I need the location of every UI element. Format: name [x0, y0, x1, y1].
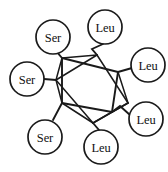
node-label-ser-top-left: Ser	[45, 31, 62, 45]
node-label-leu-top: Leu	[95, 21, 115, 35]
bond-connect-bottom-right	[93, 112, 112, 123]
node-label-ser-left: Ser	[19, 73, 36, 87]
node-label-ser-bottom-left: Ser	[37, 131, 54, 145]
cubane-substituent-diagram: Ser Leu Leu Ser Leu Ser	[0, 0, 168, 172]
node-label-leu-upper-right: Leu	[138, 59, 158, 73]
node-label-leu-lower-right: Leu	[136, 113, 156, 127]
bond-back-top-to-right	[97, 55, 128, 103]
node-leu-lower-right[interactable]: Leu	[129, 102, 163, 136]
bond-front-right	[112, 72, 118, 112]
node-leu-bottom[interactable]: Leu	[84, 130, 118, 164]
linker-leu-top	[92, 44, 103, 55]
core-bonds	[56, 55, 128, 123]
bond-connect-right-upper	[118, 72, 128, 103]
linker-ser-bottom-left	[53, 103, 62, 120]
linker-leu-bottom	[93, 123, 99, 130]
node-leu-top[interactable]: Leu	[88, 10, 122, 44]
substituent-nodes: Ser Leu Leu Ser Leu Ser	[10, 10, 165, 164]
diagram-canvas: Ser Leu Leu Ser Leu Ser	[0, 0, 168, 172]
linker-leu-upper-right	[118, 68, 132, 72]
linker-ser-left	[44, 79, 56, 80]
node-ser-top-left[interactable]: Ser	[36, 20, 70, 54]
node-leu-upper-right[interactable]: Leu	[131, 48, 165, 82]
node-label-leu-bottom: Leu	[91, 141, 111, 155]
node-ser-left[interactable]: Ser	[10, 62, 44, 96]
linker-leu-lower-right	[112, 106, 130, 115]
node-ser-bottom-left[interactable]: Ser	[28, 120, 62, 154]
